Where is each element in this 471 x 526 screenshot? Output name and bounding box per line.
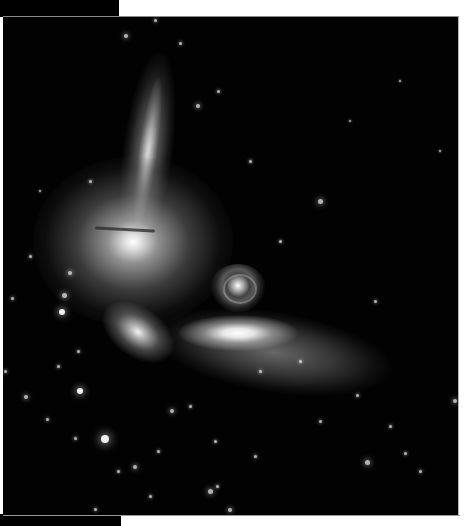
star <box>62 293 67 298</box>
star <box>228 508 232 512</box>
star <box>154 19 157 22</box>
star <box>157 450 160 453</box>
star <box>57 365 60 368</box>
star <box>149 495 152 498</box>
star <box>356 394 359 397</box>
star <box>4 370 7 373</box>
star <box>249 160 252 163</box>
frame-bottom-rule <box>3 515 460 516</box>
star <box>101 435 109 443</box>
star <box>74 437 77 440</box>
star <box>439 150 441 152</box>
star <box>214 440 217 443</box>
star <box>279 240 282 243</box>
star <box>349 120 351 122</box>
image-alt-text: Deep-space photograph of a compact galax… <box>3 17 4 18</box>
star <box>196 104 200 108</box>
star <box>133 465 137 469</box>
star <box>318 199 323 204</box>
star <box>170 409 174 413</box>
star <box>259 370 262 373</box>
star <box>399 80 401 82</box>
central-elongated-galaxy <box>178 315 298 351</box>
star <box>94 508 97 511</box>
star <box>179 42 182 45</box>
star <box>89 180 92 183</box>
star <box>124 34 128 38</box>
star <box>117 470 120 473</box>
star <box>59 309 65 315</box>
star <box>389 425 392 428</box>
star <box>77 388 83 394</box>
frame-corner-top <box>0 0 119 17</box>
star <box>404 452 407 455</box>
star <box>216 485 219 488</box>
star <box>39 190 41 192</box>
star <box>299 360 302 363</box>
galaxy-photograph: Deep-space photograph of a compact galax… <box>3 16 459 516</box>
star <box>46 418 49 421</box>
tidal-plume <box>148 294 398 411</box>
star <box>319 420 322 423</box>
star <box>189 405 192 408</box>
star <box>374 300 377 303</box>
star <box>68 271 72 275</box>
star <box>217 90 220 93</box>
star <box>254 455 257 458</box>
star <box>77 350 80 353</box>
star <box>453 399 457 403</box>
star <box>24 395 28 399</box>
star <box>419 470 422 473</box>
star <box>208 489 213 494</box>
star <box>29 255 32 258</box>
star <box>11 297 14 300</box>
star <box>365 460 370 465</box>
spiral-arm-ring <box>223 274 257 304</box>
